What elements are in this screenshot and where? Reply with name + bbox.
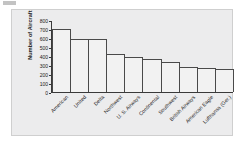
- bar: [124, 57, 143, 92]
- bar: [197, 68, 216, 92]
- bar: [161, 62, 180, 92]
- scan-artifact: [3, 1, 16, 5]
- plot-area: [51, 21, 233, 93]
- bar: [88, 39, 107, 92]
- bar-series: [52, 21, 233, 92]
- bar: [142, 59, 161, 92]
- x-axis-label: American: [50, 94, 70, 114]
- chart-figure: Number of Aircraft 010020030040050060070…: [11, 9, 233, 136]
- bar: [70, 39, 89, 92]
- y-tick-label: 700: [40, 28, 48, 33]
- x-axis-label: Delta: [93, 94, 106, 107]
- x-axis-category-labels: AmericanUnitedDeltaNorthwestU. S. Airway…: [51, 94, 233, 143]
- x-axis-line: [51, 92, 233, 93]
- bar: [215, 69, 234, 92]
- y-tick-label: 500: [40, 46, 48, 51]
- y-tick-label: 0: [45, 91, 48, 96]
- y-tick-label: 200: [40, 73, 48, 78]
- bar: [52, 29, 71, 92]
- y-tick-label: 600: [40, 37, 48, 42]
- y-axis-tick-labels: 0100200300400500600700800: [32, 21, 49, 93]
- y-tick-label: 800: [40, 19, 48, 24]
- bar: [179, 67, 198, 92]
- y-tick-label: 100: [40, 82, 48, 87]
- y-tick-label: 300: [40, 64, 48, 69]
- x-axis-label: United: [73, 94, 88, 109]
- bar: [106, 54, 125, 92]
- y-tick-label: 400: [40, 55, 48, 60]
